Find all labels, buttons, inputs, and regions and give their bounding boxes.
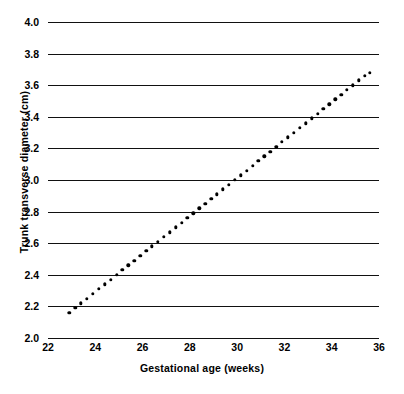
data-point xyxy=(298,126,301,129)
data-point xyxy=(269,150,272,153)
data-point xyxy=(192,211,195,214)
data-point xyxy=(156,240,159,243)
y-tick-label: 3.4 xyxy=(24,112,39,123)
data-point xyxy=(322,107,325,110)
data-point xyxy=(239,174,242,177)
data-point xyxy=(91,292,94,295)
data-point xyxy=(345,88,348,91)
data-point xyxy=(68,311,71,314)
data-point xyxy=(139,254,142,257)
data-point xyxy=(286,136,289,139)
y-tick-label: 3.6 xyxy=(24,80,39,91)
data-point xyxy=(144,249,147,252)
data-point xyxy=(339,93,342,96)
data-point xyxy=(85,297,88,300)
gridline xyxy=(48,338,379,339)
x-tick-label: 34 xyxy=(326,342,338,353)
y-tick-label: 2.0 xyxy=(24,333,39,344)
data-point xyxy=(251,164,254,167)
x-tick-label: 32 xyxy=(279,342,291,353)
data-point xyxy=(73,306,76,309)
chart-figure: Trunk transverse diameter (cm) 2.02.22.4… xyxy=(0,0,404,394)
data-point xyxy=(204,202,207,205)
data-point xyxy=(351,83,354,86)
data-point xyxy=(316,112,319,115)
data-point xyxy=(198,207,201,210)
data-point xyxy=(97,287,100,290)
y-tick-label: 2.8 xyxy=(24,206,39,217)
data-point xyxy=(263,155,266,158)
x-axis-tick-labels: 2224262830323436 xyxy=(48,342,379,356)
x-tick-label: 30 xyxy=(231,342,243,353)
data-point xyxy=(280,140,283,143)
data-point xyxy=(227,183,230,186)
y-tick-label: 3.2 xyxy=(24,143,39,154)
data-point xyxy=(121,268,124,271)
y-tick-label: 3.0 xyxy=(24,175,39,186)
data-point xyxy=(357,79,360,82)
data-point xyxy=(215,193,218,196)
y-tick-label: 2.2 xyxy=(24,301,39,312)
y-tick-label: 3.8 xyxy=(24,48,39,59)
data-point xyxy=(79,302,82,305)
x-tick-label: 36 xyxy=(373,342,385,353)
data-point xyxy=(168,230,171,233)
data-point xyxy=(292,131,295,134)
data-point xyxy=(310,117,313,120)
data-point xyxy=(174,226,177,229)
data-point xyxy=(109,278,112,281)
y-tick-label: 2.4 xyxy=(24,270,39,281)
x-tick-label: 24 xyxy=(89,342,101,353)
data-point xyxy=(103,283,106,286)
data-point xyxy=(115,273,118,276)
data-point xyxy=(334,98,337,101)
y-axis-tick-labels: 2.02.22.42.62.83.03.23.43.63.84.0 xyxy=(0,0,44,316)
x-tick-label: 26 xyxy=(137,342,149,353)
data-point xyxy=(150,245,153,248)
data-point xyxy=(257,159,260,162)
data-point xyxy=(180,221,183,224)
data-point xyxy=(368,71,371,74)
data-point xyxy=(209,197,212,200)
data-point xyxy=(328,102,331,105)
data-series-points xyxy=(48,22,379,338)
data-point xyxy=(304,121,307,124)
data-point xyxy=(233,178,236,181)
data-point xyxy=(245,169,248,172)
data-point xyxy=(274,145,277,148)
data-point xyxy=(186,216,189,219)
data-point xyxy=(162,235,165,238)
x-tick-label: 22 xyxy=(42,342,54,353)
y-tick-label: 2.6 xyxy=(24,238,39,249)
x-tick-label: 28 xyxy=(184,342,196,353)
data-point xyxy=(133,259,136,262)
data-point xyxy=(221,188,224,191)
data-point xyxy=(363,74,366,77)
x-axis-title: Gestational age (weeks) xyxy=(0,362,404,374)
data-point xyxy=(127,264,130,267)
plot-area xyxy=(48,22,379,338)
y-tick-label: 4.0 xyxy=(24,17,39,28)
